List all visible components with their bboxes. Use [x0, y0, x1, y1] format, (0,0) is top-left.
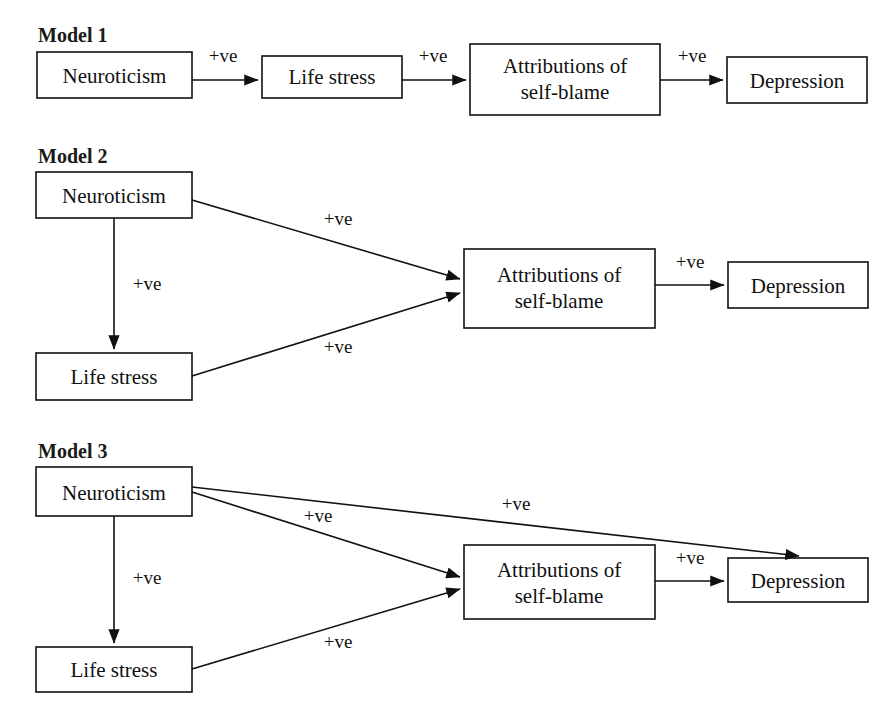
- model-2-depression-label: Depression: [751, 274, 846, 298]
- model-1-title: Model 1: [38, 24, 107, 46]
- model-2-life-stress-label: Life stress: [71, 365, 158, 389]
- path-models-diagram: Model 1 Neuroticism Life stress Attribut…: [0, 0, 896, 724]
- model-1-life-stress-label: Life stress: [289, 65, 376, 89]
- model-3-edge-line-4: [192, 589, 460, 669]
- model-2-edge-neuroticism-to-attributions: +ve: [192, 200, 460, 279]
- model-1-edge-label-2: +ve: [419, 45, 448, 66]
- model-2-node-life-stress[interactable]: Life stress: [36, 353, 192, 400]
- model-3-edge-label-2: +ve: [304, 505, 333, 526]
- model-3-title: Model 3: [38, 440, 107, 462]
- model-2-edge-line-3: [192, 293, 460, 376]
- model-2-neuroticism-label: Neuroticism: [62, 184, 166, 208]
- model-1-attributions-label-line2: self-blame: [521, 80, 610, 104]
- model-1-node-neuroticism[interactable]: Neuroticism: [37, 52, 192, 98]
- model-2-title: Model 2: [38, 145, 107, 167]
- model-1-node-life-stress[interactable]: Life stress: [262, 56, 402, 98]
- model-2-edge-label-4: +ve: [676, 251, 705, 272]
- model-2-attributions-label-line2: self-blame: [515, 289, 604, 313]
- model-3-edge-label-4: +ve: [324, 631, 353, 652]
- model-3-edge-label-5: +ve: [676, 547, 705, 568]
- model-3-node-depression[interactable]: Depression: [728, 558, 868, 602]
- model-2-node-depression[interactable]: Depression: [728, 262, 868, 308]
- model-3-node-life-stress[interactable]: Life stress: [36, 647, 192, 692]
- model-1-attributions-label-line1: Attributions of: [503, 54, 627, 78]
- model-3-attributions-label-line2: self-blame: [515, 584, 604, 608]
- model-2-edge-attributions-to-depression: +ve: [655, 251, 724, 285]
- model-3-edge-life-stress-to-attributions: +ve: [192, 589, 460, 669]
- model-2-edge-neuroticism-to-life-stress: +ve: [114, 218, 161, 349]
- model-2-group: Model 2 Neuroticism Life stress Attribut…: [36, 145, 868, 400]
- model-3-edge-label-1: +ve: [133, 567, 162, 588]
- model-1-edge-neuroticism-to-life-stress: +ve: [192, 45, 258, 80]
- model-3-group: Model 3 Neuroticism Life stress Attribut…: [36, 440, 868, 692]
- model-2-edge-label-2: +ve: [324, 208, 353, 229]
- model-1-edge-label-3: +ve: [678, 45, 707, 66]
- model-3-life-stress-label: Life stress: [71, 658, 158, 682]
- model-3-node-attributions[interactable]: Attributions of self-blame: [464, 545, 655, 619]
- model-1-edge-label-1: +ve: [209, 45, 238, 66]
- model-1-edge-attributions-to-depression: +ve: [660, 45, 723, 80]
- model-3-edge-neuroticism-to-attributions: +ve: [192, 492, 460, 577]
- model-2-edge-label-3: +ve: [324, 336, 353, 357]
- model-1-node-attributions[interactable]: Attributions of self-blame: [470, 44, 660, 115]
- model-2-node-neuroticism[interactable]: Neuroticism: [36, 172, 192, 218]
- model-2-attributions-label-line1: Attributions of: [497, 263, 621, 287]
- model-3-edge-neuroticism-to-life-stress: +ve: [114, 516, 161, 643]
- model-2-node-attributions[interactable]: Attributions of self-blame: [464, 249, 655, 328]
- model-2-edge-life-stress-to-attributions: +ve: [192, 293, 460, 376]
- model-1-node-depression[interactable]: Depression: [727, 57, 867, 103]
- model-3-depression-label: Depression: [751, 569, 846, 593]
- model-3-edge-attributions-to-depression: +ve: [655, 547, 724, 581]
- model-1-neuroticism-label: Neuroticism: [63, 64, 167, 88]
- model-1-group: Model 1 Neuroticism Life stress Attribut…: [37, 24, 867, 115]
- model-1-depression-label: Depression: [750, 69, 845, 93]
- model-3-neuroticism-label: Neuroticism: [62, 481, 166, 505]
- model-3-attributions-label-line1: Attributions of: [497, 558, 621, 582]
- model-1-edge-life-stress-to-attributions: +ve: [402, 45, 466, 80]
- model-3-edge-label-3: +ve: [502, 493, 531, 514]
- model-3-node-neuroticism[interactable]: Neuroticism: [36, 467, 192, 516]
- model-2-edge-label-1: +ve: [133, 273, 162, 294]
